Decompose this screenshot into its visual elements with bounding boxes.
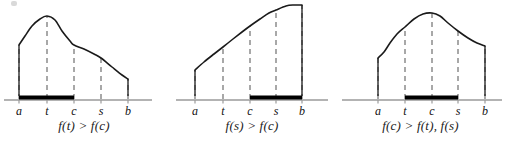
tick-label-b: b	[299, 104, 305, 118]
tick-label-c: c	[247, 104, 253, 118]
function-curve	[195, 5, 302, 70]
panel-fc-gt-ft-fs: atcsb f(c) > f(t), f(s)	[336, 0, 505, 154]
panel-2-caption: f(c) > f(t), f(s)	[336, 118, 505, 134]
panel-fs-gt-fc: atcsb f(s) > f(c)	[168, 0, 336, 154]
panel-0-plot: atcsb	[0, 0, 168, 118]
tick-label-s: s	[456, 104, 461, 118]
tick-label-t: t	[403, 104, 407, 118]
panel-1-caption: f(s) > f(c)	[168, 118, 336, 134]
tick-label-b: b	[482, 104, 488, 118]
tick-label-s: s	[99, 104, 104, 118]
tick-label-a: a	[192, 104, 198, 118]
tick-label-c: c	[71, 104, 77, 118]
tick-label-t: t	[45, 104, 49, 118]
tick-label-b: b	[125, 104, 131, 118]
tick-label-c: c	[429, 104, 435, 118]
panel-1-plot: atcsb	[168, 0, 336, 118]
panel-0-caption: f(t) > f(c)	[0, 118, 168, 134]
tick-label-s: s	[274, 104, 279, 118]
tick-label-t: t	[221, 104, 225, 118]
tick-label-a: a	[375, 104, 381, 118]
tick-label-a: a	[16, 104, 22, 118]
panel-2-plot: atcsb	[336, 0, 505, 118]
three-panel-function-figure: atcsb f(t) > f(c) atcsb f(s) > f(c) atcs…	[0, 0, 505, 154]
panel-ft-gt-fc: atcsb f(t) > f(c)	[0, 0, 168, 154]
